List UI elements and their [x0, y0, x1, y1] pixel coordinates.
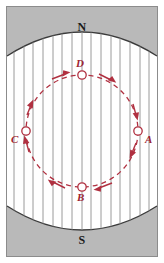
point-marker-D — [78, 71, 86, 79]
figure-magnetic-field-circular-orbit: N S D A B C — [0, 0, 164, 263]
point-label-C: C — [11, 133, 18, 145]
diagram-canvas — [0, 0, 164, 263]
point-marker-B — [78, 183, 86, 191]
point-label-A: A — [145, 133, 152, 145]
point-label-D: D — [76, 57, 84, 69]
south-pole-label: S — [0, 233, 164, 248]
point-marker-C — [22, 127, 30, 135]
north-pole-label: N — [0, 20, 164, 35]
point-marker-A — [134, 127, 142, 135]
point-label-B: B — [77, 191, 84, 203]
